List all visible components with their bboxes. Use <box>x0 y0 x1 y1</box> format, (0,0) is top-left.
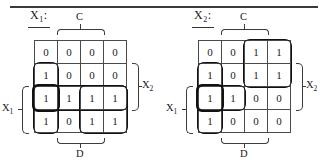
kmap-cell[interactable]: 0 <box>245 87 268 110</box>
kmap-cell[interactable]: 0 <box>58 41 81 64</box>
kmap-cell[interactable]: 1 <box>104 87 127 110</box>
bracket-right-label-subscript: 2 <box>314 84 318 93</box>
kmap-cell[interactable]: 1 <box>35 87 58 110</box>
kmap-cell[interactable]: 1 <box>35 64 58 87</box>
kmap-cell[interactable]: 0 <box>104 64 127 87</box>
bracket-top-label: C <box>240 11 247 22</box>
bracket-left <box>22 86 29 134</box>
bracket-right <box>296 63 303 111</box>
kmap-left: X1:0000100011111011CDX2X1 <box>0 0 164 160</box>
kmap-cell[interactable]: 1 <box>81 87 104 110</box>
kmap-cell[interactable]: 0 <box>104 41 127 64</box>
kmap-cell[interactable]: 1 <box>81 110 104 133</box>
bracket-right-label-text: X <box>306 79 314 90</box>
kmap-cell[interactable]: 0 <box>268 110 291 133</box>
kmap-cell[interactable]: 1 <box>104 110 127 133</box>
bracket-left-label-text: X <box>2 102 10 113</box>
kmap-cell[interactable]: 1 <box>268 64 291 87</box>
bracket-right-label: X2 <box>142 79 153 93</box>
kmap-cell[interactable]: 0 <box>222 41 245 64</box>
kmap-cell[interactable]: 1 <box>199 87 222 110</box>
bracket-left-label-subscript: 1 <box>10 107 14 116</box>
bracket-right-label: X2 <box>306 79 317 93</box>
bracket-top-stem <box>244 24 245 29</box>
kmap-cell[interactable]: 1 <box>222 87 245 110</box>
bracket-left-stem <box>182 109 186 110</box>
kmap-cell[interactable]: 1 <box>268 41 291 64</box>
kmap-title-suffix: : <box>208 8 212 22</box>
bracket-bottom-label: D <box>76 148 84 159</box>
bracket-left-label: X1 <box>166 102 177 116</box>
bracket-left-stem <box>18 109 22 110</box>
kmap-right: X2:0011101111001000CDX2X1 <box>164 0 328 160</box>
kmap-title: X1: <box>28 9 50 28</box>
kmap-cell[interactable]: 0 <box>58 110 81 133</box>
kmap-cell[interactable]: 1 <box>35 110 58 133</box>
kmap-cell[interactable]: 1 <box>199 64 222 87</box>
kmap-cell[interactable]: 0 <box>222 64 245 87</box>
kmap-cell[interactable]: 1 <box>199 110 222 133</box>
kmap-grid: 0000100011111011 <box>34 40 127 133</box>
bracket-top-stem <box>80 24 81 29</box>
bracket-top <box>221 29 269 35</box>
kmap-title-text: X <box>30 8 39 22</box>
bracket-left <box>186 86 193 134</box>
kmap-cell[interactable]: 1 <box>58 87 81 110</box>
bracket-top-label: C <box>76 11 83 22</box>
bracket-left-label-subscript: 1 <box>174 107 178 116</box>
kmap-cell[interactable]: 0 <box>268 87 291 110</box>
bracket-left-label-text: X <box>166 102 174 113</box>
kmap-cell[interactable]: 0 <box>81 64 104 87</box>
kmap-cell[interactable]: 1 <box>245 64 268 87</box>
kmap-title: X2: <box>192 9 214 28</box>
kmap-grid: 0011101111001000 <box>198 40 291 133</box>
karnaugh-map-figure: X1:0000100011111011CDX2X1 X2:00111011110… <box>0 0 328 160</box>
bracket-right <box>132 63 139 111</box>
kmap-cell[interactable]: 0 <box>245 110 268 133</box>
kmap-cell[interactable]: 0 <box>81 41 104 64</box>
bracket-left-label: X1 <box>2 102 13 116</box>
kmap-cell[interactable]: 0 <box>35 41 58 64</box>
kmap-cell[interactable]: 1 <box>245 41 268 64</box>
kmap-title-suffix: : <box>44 8 48 22</box>
bracket-right-label-text: X <box>142 79 150 90</box>
bracket-right-label-subscript: 2 <box>150 84 154 93</box>
kmap-cell[interactable]: 0 <box>58 64 81 87</box>
bracket-top <box>57 29 105 35</box>
kmap-cell[interactable]: 0 <box>222 110 245 133</box>
bracket-bottom-label: D <box>240 148 248 159</box>
kmap-title-text: X <box>194 8 203 22</box>
kmap-cell[interactable]: 0 <box>199 41 222 64</box>
